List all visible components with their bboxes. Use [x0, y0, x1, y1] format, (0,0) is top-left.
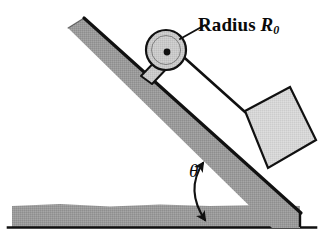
angle-label: θ: [189, 161, 198, 180]
radius-label: Radius R0: [198, 15, 279, 36]
radius-symbol: R: [261, 14, 274, 35]
pulley-wheel: [146, 30, 186, 70]
physics-diagram-figure: Radius R0 θ: [0, 0, 328, 239]
radius-subscript: 0: [273, 23, 279, 37]
block-on-incline: [245, 87, 316, 168]
pulley-axle: [164, 49, 171, 56]
radius-label-text: Radius: [198, 14, 256, 35]
